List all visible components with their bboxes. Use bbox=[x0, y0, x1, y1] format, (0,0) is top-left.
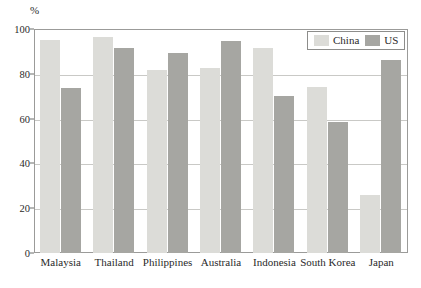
bar-group bbox=[301, 29, 354, 253]
bar-china-thailand bbox=[93, 37, 113, 253]
y-tick-label: 60 bbox=[0, 113, 30, 124]
bar-china-australia bbox=[200, 68, 220, 253]
bar-chart: % 020406080100 MalaysiaThailandPhilippin… bbox=[0, 0, 421, 288]
y-tick-label: 20 bbox=[0, 203, 30, 214]
y-tick-label: 80 bbox=[0, 68, 30, 79]
legend-swatch-icon bbox=[314, 35, 329, 46]
bar-us-indonesia bbox=[274, 96, 294, 253]
y-tick-label: 0 bbox=[0, 248, 30, 259]
y-tick-label: 40 bbox=[0, 158, 30, 169]
bar-china-south-korea bbox=[307, 87, 327, 253]
bar-group bbox=[141, 29, 194, 253]
chart-legend: ChinaUS bbox=[307, 31, 405, 50]
x-tick-label: Japan bbox=[369, 256, 394, 268]
bar-us-philippines bbox=[168, 53, 188, 253]
legend-swatch-icon bbox=[365, 35, 380, 46]
bar-us-south-korea bbox=[328, 122, 348, 253]
legend-item-china: China bbox=[314, 35, 359, 46]
x-tick-label: Philippines bbox=[143, 256, 193, 268]
bar-china-japan bbox=[360, 195, 380, 253]
bar-group bbox=[248, 29, 301, 253]
legend-item-us: US bbox=[365, 35, 398, 46]
bar-us-thailand bbox=[114, 48, 134, 253]
legend-label: China bbox=[333, 35, 359, 46]
x-axis-labels: MalaysiaThailandPhilippinesAustraliaIndo… bbox=[34, 256, 408, 280]
y-axis: 020406080100 bbox=[0, 29, 30, 253]
bar-us-australia bbox=[221, 41, 241, 253]
bar-china-indonesia bbox=[253, 48, 273, 253]
bar-group bbox=[34, 29, 87, 253]
legend-label: US bbox=[384, 35, 398, 46]
bar-group bbox=[87, 29, 140, 253]
bar-us-japan bbox=[381, 60, 401, 253]
bar-china-philippines bbox=[147, 70, 167, 253]
x-tick-label: South Korea bbox=[300, 256, 355, 268]
bar-group bbox=[194, 29, 247, 253]
bar-china-malaysia bbox=[40, 40, 60, 253]
y-tick-label: 100 bbox=[0, 24, 30, 35]
x-tick-label: Thailand bbox=[95, 256, 134, 268]
bars-layer bbox=[34, 29, 408, 253]
x-tick-label: Australia bbox=[201, 256, 241, 268]
bar-group bbox=[355, 29, 408, 253]
x-tick-label: Indonesia bbox=[253, 256, 296, 268]
y-axis-unit-label: % bbox=[30, 4, 39, 16]
bar-us-malaysia bbox=[61, 88, 81, 253]
x-tick-label: Malaysia bbox=[41, 256, 81, 268]
